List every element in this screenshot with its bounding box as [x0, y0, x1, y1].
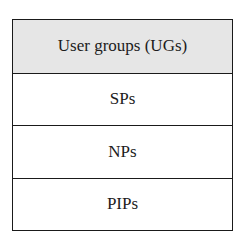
row-label: PIPs: [107, 194, 138, 214]
header-label: User groups (UGs): [58, 36, 187, 56]
row-label: SPs: [110, 89, 136, 109]
row-nps: NPs: [13, 125, 232, 178]
row-pips: PIPs: [13, 178, 232, 231]
user-groups-table: User groups (UGs) SPs NPs PIPs: [12, 19, 233, 231]
header-user-groups: User groups (UGs): [13, 20, 232, 73]
row-label: NPs: [108, 142, 136, 162]
row-sps: SPs: [13, 73, 232, 126]
